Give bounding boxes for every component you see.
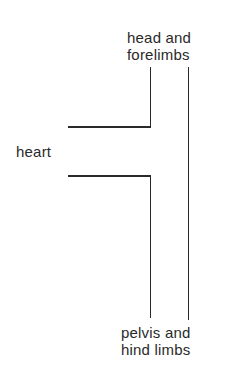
lower-vertical-vessel <box>150 175 152 318</box>
upper-horizontal-vessel <box>68 126 151 128</box>
upper-vertical-vessel <box>150 67 152 127</box>
outer-vertical-vessel <box>188 67 190 320</box>
label-heart: heart <box>16 143 51 160</box>
label-head-forelimbs: head and forelimbs <box>127 29 191 63</box>
lower-horizontal-vessel <box>68 175 151 177</box>
label-pelvis-line2: hind limbs <box>121 341 191 358</box>
label-pelvis-line1: pelvis and <box>121 324 191 341</box>
label-head-line1: head and <box>127 29 191 46</box>
label-head-line2: forelimbs <box>127 46 191 63</box>
label-pelvis-hind-limbs: pelvis and hind limbs <box>121 324 191 358</box>
